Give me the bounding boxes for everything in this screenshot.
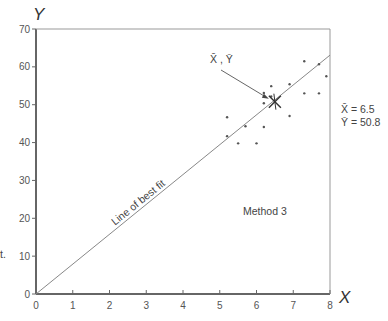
data-point [226, 116, 228, 118]
data-point [263, 102, 265, 104]
data-point [325, 75, 327, 77]
axis-ticks: 012345678010203040506070 [19, 24, 333, 312]
data-point [288, 83, 290, 85]
x-tick-label: 0 [33, 300, 39, 311]
y-mean-annotation: Ȳ = 50.8 [341, 116, 381, 128]
data-point [318, 63, 320, 65]
x-tick-label: 4 [180, 300, 186, 311]
data-points [226, 60, 328, 145]
mean-marker [221, 70, 281, 110]
data-point [270, 85, 272, 87]
y-tick-label: 30 [19, 175, 31, 186]
plot-frame [36, 29, 330, 294]
x-mean-annotation: X̄ = 6.5 [341, 103, 375, 115]
x-tick-label: 3 [143, 300, 149, 311]
left-text-fragment: t. [0, 248, 6, 260]
y-tick-label: 60 [19, 61, 31, 72]
data-point [244, 125, 246, 127]
x-tick-label: 7 [290, 300, 296, 311]
data-point [226, 135, 228, 137]
x-tick-label: 8 [327, 300, 333, 311]
x-tick-label: 2 [107, 300, 113, 311]
x-tick-label: 6 [254, 300, 260, 311]
data-point [303, 60, 305, 62]
mean-point-label: X̄ , Ȳ [210, 53, 233, 65]
y-tick-label: 20 [19, 213, 31, 224]
best-fit-line [36, 55, 330, 294]
data-point [237, 142, 239, 144]
data-point [255, 142, 257, 144]
data-point [303, 92, 305, 94]
scatter-chart: 012345678010203040506070 X Y Method 3 X̄… [0, 0, 388, 321]
best-fit-label: Line of best fit [109, 177, 167, 228]
x-tick-label: 1 [70, 300, 76, 311]
y-tick-label: 10 [19, 251, 31, 262]
y-axis-title: Y [33, 5, 46, 24]
method-label: Method 3 [243, 205, 287, 217]
y-tick-label: 40 [19, 137, 31, 148]
data-point [288, 115, 290, 117]
x-axis-title: X [338, 288, 351, 307]
data-point [263, 126, 265, 128]
data-point [318, 92, 320, 94]
y-tick-label: 0 [24, 289, 30, 300]
y-tick-label: 50 [19, 99, 31, 110]
y-tick-label: 70 [19, 24, 31, 35]
x-tick-label: 5 [217, 300, 223, 311]
